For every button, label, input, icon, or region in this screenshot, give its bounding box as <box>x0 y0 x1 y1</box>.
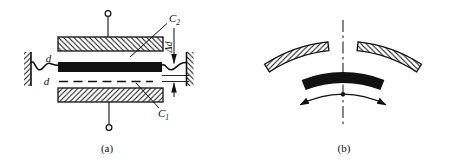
right-curved-fixed-plate <box>357 42 421 72</box>
movable-plate <box>58 62 162 72</box>
right-wall-hatching <box>187 52 194 86</box>
left-spring <box>31 62 58 70</box>
caption-figure-b: (b) <box>338 142 351 155</box>
figure-b: (b) <box>265 20 422 155</box>
left-curved-fixed-plate <box>265 42 329 72</box>
caption-figure-a: (a) <box>101 142 114 155</box>
right-spring <box>162 63 187 70</box>
left-wall-hatching <box>24 52 31 86</box>
diagram-canvas: C2 d d Δd C1 (a) <box>0 0 451 165</box>
label-delta-d: Δd <box>163 41 174 54</box>
label-gap-top: d <box>46 52 52 64</box>
top-fixed-plate <box>58 37 163 51</box>
label-c2: C2 <box>169 12 180 27</box>
bottom-terminal-icon <box>106 125 112 131</box>
top-terminal-icon <box>105 11 111 17</box>
label-c1: C1 <box>158 107 169 122</box>
pivot-dot <box>341 92 345 96</box>
capacitor-sensor-diagram: C2 d d Δd C1 (a) <box>0 0 451 165</box>
figure-a: C2 d d Δd C1 (a) <box>24 11 194 155</box>
label-gap-bottom: d <box>44 75 50 87</box>
